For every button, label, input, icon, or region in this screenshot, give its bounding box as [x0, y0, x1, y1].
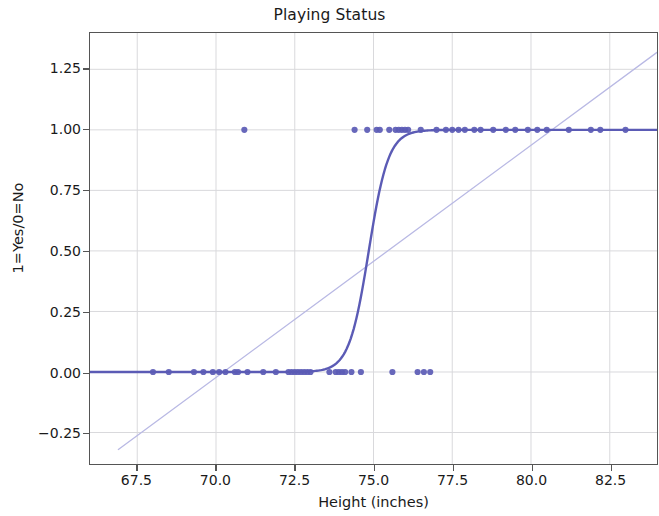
x-tick-label: 77.5	[413, 472, 493, 488]
x-tick-label: 82.5	[571, 472, 651, 488]
x-axis-tick-labels: 67.570.072.575.077.580.082.5	[0, 472, 659, 494]
data-point	[273, 369, 279, 375]
y-tick-mark	[83, 129, 89, 130]
data-point	[166, 369, 172, 375]
data-point	[235, 369, 241, 375]
chart-title: Playing Status	[0, 6, 659, 24]
data-point	[471, 127, 477, 133]
data-point	[364, 127, 370, 133]
data-point	[588, 127, 594, 133]
y-tick-mark	[83, 373, 89, 374]
data-point	[478, 127, 484, 133]
plot-svg	[90, 33, 657, 464]
data-point	[326, 369, 332, 375]
y-tick-mark	[83, 433, 89, 434]
data-point	[433, 127, 439, 133]
data-point	[352, 127, 358, 133]
x-tick-mark	[136, 465, 137, 471]
data-point	[566, 127, 572, 133]
data-point	[427, 369, 433, 375]
data-point	[150, 369, 156, 375]
data-point	[421, 369, 427, 375]
x-tick-mark	[374, 465, 375, 471]
data-point	[455, 127, 461, 133]
x-tick-mark	[611, 465, 612, 471]
data-point	[389, 369, 395, 375]
data-point	[386, 127, 392, 133]
x-tick-label: 67.5	[96, 472, 176, 488]
data-point	[210, 369, 216, 375]
data-point	[358, 369, 364, 375]
data-point	[260, 369, 266, 375]
data-point	[342, 369, 348, 375]
data-point	[503, 127, 509, 133]
x-tick-mark	[215, 465, 216, 471]
data-point	[512, 127, 518, 133]
data-point	[405, 127, 411, 133]
data-point	[222, 369, 228, 375]
y-axis-label: 1=Yes/0=No	[10, 148, 26, 308]
data-point	[490, 127, 496, 133]
x-tick-label: 70.0	[175, 472, 255, 488]
y-tick-mark	[83, 251, 89, 252]
y-tick-label: 0.00	[9, 365, 81, 381]
x-axis-label: Height (inches)	[89, 494, 658, 510]
data-point	[241, 127, 247, 133]
x-tick-label: 75.0	[334, 472, 414, 488]
x-tick-mark	[532, 465, 533, 471]
data-point	[443, 127, 449, 133]
data-point	[534, 127, 540, 133]
data-point	[449, 127, 455, 133]
data-point	[244, 369, 250, 375]
y-tick-label: −0.25	[9, 425, 81, 441]
y-tick-label: 1.25	[9, 60, 81, 76]
data-point	[544, 127, 550, 133]
data-point	[307, 369, 313, 375]
x-tick-mark	[453, 465, 454, 471]
data-point	[216, 369, 222, 375]
data-point	[597, 127, 603, 133]
data-point	[462, 127, 468, 133]
data-point	[348, 369, 354, 375]
x-tick-label: 72.5	[254, 472, 334, 488]
y-tick-mark	[83, 68, 89, 69]
y-tick-mark	[83, 190, 89, 191]
y-tick-mark	[83, 312, 89, 313]
data-point	[377, 127, 383, 133]
matplotlib-figure: Playing Status −0.250.000.250.500.751.00…	[0, 0, 659, 516]
x-tick-label: 80.0	[492, 472, 572, 488]
y-tick-label: 1.00	[9, 121, 81, 137]
x-tick-mark	[294, 465, 295, 471]
data-point	[525, 127, 531, 133]
data-point	[622, 127, 628, 133]
data-point	[191, 369, 197, 375]
data-point	[200, 369, 206, 375]
plot-area	[89, 32, 658, 465]
gridlines	[90, 33, 657, 464]
data-point	[415, 369, 421, 375]
data-point	[418, 127, 424, 133]
